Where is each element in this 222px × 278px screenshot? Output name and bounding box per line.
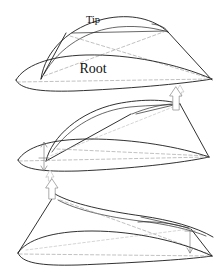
panel-untwisted-wing: Tip Root (16, 14, 213, 96)
leading-edge-3 (18, 194, 55, 253)
outboard-edge-3 (191, 229, 212, 256)
root-chord-line (17, 79, 211, 82)
panel-washout-wing (18, 179, 213, 265)
root-label: Root (79, 61, 106, 76)
root-up-arrow (46, 179, 58, 199)
tip-label: Tip (86, 14, 100, 25)
panel-washin-wing (18, 87, 209, 181)
tip-surface-fill-3 (55, 196, 212, 242)
wing-twist-diagram: Tip Root (0, 0, 222, 278)
reference-marker-arrow-panel2 (46, 170, 54, 181)
root-chord-line-3 (19, 254, 211, 256)
diagram-canvas: Tip Root (0, 0, 222, 278)
tip-surface-fill-2 (46, 101, 208, 160)
